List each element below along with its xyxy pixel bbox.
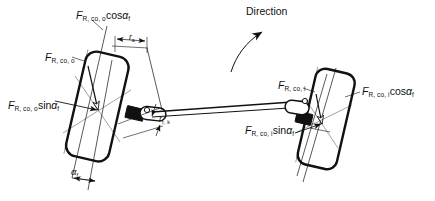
kingpin-offset-label: rτ, k [159, 115, 170, 124]
kingpin-angle-subscript: f [76, 172, 78, 178]
force-inner-sin-label: FR, co, isinαf [245, 125, 294, 136]
force-outer-cos-function: cos [106, 9, 122, 21]
force-outer-sin-subscript: R, co, o [14, 105, 37, 112]
force-outer-sin-label: FR, co, osinαf [8, 100, 59, 111]
track-rod-upper [152, 101, 306, 112]
force-outer-total-subscript: R, co, o [51, 57, 74, 64]
left-ball-joint [144, 107, 149, 112]
scrub-radius-subscript: a [132, 37, 135, 43]
kingpin-angle-label: αf [71, 167, 78, 177]
force-outer-cos-label: FR, co, ocosαf [76, 10, 130, 21]
force-inner-total-label: FR, co, i [278, 80, 306, 91]
direction-label: Direction [246, 6, 287, 17]
track-rod-lower [152, 107, 304, 117]
axle-linkage [152, 101, 306, 117]
scrub-radius-label: ra [129, 33, 135, 42]
force-inner-sin-function: sin [273, 124, 286, 136]
force-inner-cos-function: cos [390, 85, 406, 97]
force-outer-cos-angle-subscript: f [128, 15, 130, 22]
kingpin-angle-arrow-left [74, 178, 95, 181]
steering-geometry-diagram: Direction FR, co, ocosαf FR, co, o FR, c… [0, 0, 435, 201]
diagram-canvas [0, 0, 435, 201]
scrub-radius-extension-top [112, 46, 148, 48]
force-outer-total-label: FR, co, o [45, 52, 75, 63]
scrub-radius-projection [147, 48, 162, 110]
force-inner-total-subscript: R, co, i [284, 85, 305, 92]
direction-indicator [231, 32, 262, 72]
kingpin-offset-subscript: τ, k [162, 119, 170, 125]
kingpin-offset-arrow-bottom [156, 125, 160, 136]
direction-arrow [231, 32, 262, 72]
force-inner-cos-label: FR, co, icosαf [362, 86, 414, 97]
force-outer-sin-function: sin [38, 99, 51, 111]
force-inner-sin-subscript: R, co, i [251, 130, 272, 137]
left-wheel-assembly [55, 20, 167, 190]
force-inner-sin-angle-subscript: f [292, 130, 294, 137]
force-inner-cos-angle-subscript: f [412, 91, 414, 98]
kingpin-angle-dimension [72, 178, 95, 181]
force-outer-sin-angle-subscript: f [57, 105, 59, 112]
kingpin-offset-extension-lower [123, 126, 163, 138]
force-inner-cos-subscript: R, co, i [368, 91, 389, 98]
force-outer-cos-subscript: R, co, o [82, 15, 105, 22]
